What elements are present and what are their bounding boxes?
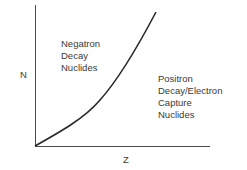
positron-line-2: Decay/Electron <box>158 85 222 97</box>
y-axis-label: N <box>20 69 27 81</box>
positron-line-4: Nuclides <box>158 109 222 121</box>
negatron-region-label: Negatron Decay Nuclides <box>61 38 100 74</box>
negatron-line-3: Nuclides <box>61 62 100 74</box>
positron-line-1: Positron <box>158 73 222 85</box>
positron-line-3: Capture <box>158 97 222 109</box>
positron-region-label: Positron Decay/Electron Capture Nuclides <box>158 73 222 121</box>
x-axis-label: Z <box>123 154 129 166</box>
negatron-line-1: Negatron <box>61 38 100 50</box>
stability-curve <box>35 12 156 146</box>
negatron-line-2: Decay <box>61 50 100 62</box>
